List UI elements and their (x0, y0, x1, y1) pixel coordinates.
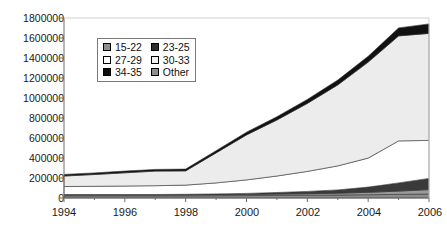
legend-swatch-icon (103, 56, 111, 64)
legend-label: Other (163, 67, 189, 78)
legend-label: 23-25 (163, 42, 190, 53)
legend-item: 15-22 (103, 42, 142, 53)
x-tick-label: 2002 (286, 207, 330, 218)
x-tick-label: 1996 (103, 207, 147, 218)
x-tick-label: 2004 (347, 207, 391, 218)
legend-swatch-icon (103, 43, 111, 51)
x-tick-label: 1994 (42, 207, 86, 218)
y-axis-ticks (60, 18, 64, 198)
legend-label: 30-33 (163, 55, 190, 66)
x-tick-label: 2006 (408, 207, 447, 218)
legend-swatch-icon (151, 43, 159, 51)
legend-swatch-icon (151, 68, 159, 76)
legend-item: 27-29 (103, 55, 142, 66)
legend-label: 15-22 (115, 42, 142, 53)
legend-item: 23-25 (151, 42, 190, 53)
legend-label: 34-35 (115, 67, 142, 78)
x-tick-label: 2000 (225, 207, 269, 218)
x-axis-ticks (64, 198, 429, 202)
legend-swatch-icon (151, 56, 159, 64)
chart-legend: 15-2223-2527-2930-3334-35Other (97, 38, 196, 82)
legend-item: 34-35 (103, 67, 142, 78)
legend-item: 30-33 (151, 55, 190, 66)
legend-label: 27-29 (115, 55, 142, 66)
legend-swatch-icon (103, 68, 111, 76)
legend-item: Other (151, 67, 190, 78)
x-tick-label: 1998 (164, 207, 208, 218)
